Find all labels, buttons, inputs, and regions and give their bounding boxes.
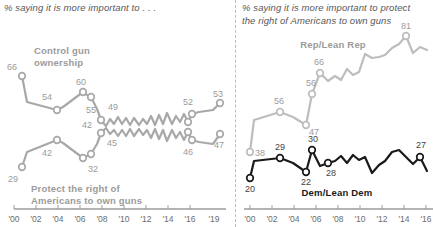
right-chart-panel: % saying it is more important to protect… [236, 0, 433, 227]
data-point-marker [277, 155, 284, 162]
right-chart-svg: 38 56 47 56 66 81 20 29 22 30 28 27 Rep/… [236, 0, 433, 227]
data-point-marker [54, 107, 61, 114]
data-point-marker [277, 109, 284, 116]
value-label-rep-c: 56 [306, 78, 316, 88]
value-label-protect-b: 32 [88, 164, 98, 174]
axis-label-left-8: '16 [184, 214, 195, 224]
data-point-marker [98, 117, 105, 124]
data-point-marker [19, 164, 26, 171]
data-point-marker [98, 130, 105, 137]
value-label-dem-start: 20 [245, 184, 255, 194]
value-label-protect-end: 47 [214, 140, 224, 150]
data-point-marker [309, 147, 316, 154]
data-point-marker [403, 33, 410, 40]
data-point-marker [88, 94, 95, 101]
value-label-control-d: 49 [108, 102, 118, 112]
series-label-control-gun-ownership: Control gunownership [34, 45, 90, 68]
axis-label-right-4: '08 [332, 214, 343, 224]
data-point-marker [189, 137, 196, 144]
value-label-rep-d: 66 [314, 57, 324, 67]
data-point-marker [189, 111, 196, 118]
axis-label-right-0: '00 [244, 214, 255, 224]
data-point-marker [185, 129, 192, 136]
data-point-marker [303, 169, 310, 176]
value-label-dem-c: 30 [308, 134, 318, 144]
axis-label-left-0: '00 [8, 214, 19, 224]
data-point-marker [88, 151, 95, 158]
axis-label-left-4: '08 [96, 214, 107, 224]
value-label-dem-b: 22 [301, 177, 311, 187]
value-label-protect-d: 45 [107, 138, 117, 148]
value-label-rep-end: 81 [401, 21, 411, 31]
data-point-marker [185, 119, 192, 126]
series-label-rep-lean-rep: Rep/Lean Rep [300, 39, 366, 50]
value-label-control-a: 54 [42, 92, 52, 102]
data-point-marker [54, 137, 61, 144]
axis-label-right-3: '06 [310, 214, 321, 224]
value-label-dem-d: 28 [326, 168, 336, 178]
axis-label-right-1: '02 [266, 214, 277, 224]
value-label-dem-end: 27 [416, 140, 426, 150]
data-point-marker [19, 73, 26, 80]
value-label-control-c: 55 [86, 105, 96, 115]
left-chart-svg: 66 54 60 55 49 52 53 29 42 32 42 45 46 4… [0, 0, 226, 227]
data-point-marker [309, 91, 316, 98]
axis-label-left-9: '19 [208, 214, 219, 224]
value-label-dem-a: 29 [275, 142, 285, 152]
left-chart-panel: % saying it is more important to . . . 6… [0, 0, 226, 227]
axis-label-right-6: '12 [376, 214, 387, 224]
value-label-control-b: 60 [76, 77, 86, 87]
value-label-rep-a: 56 [274, 96, 284, 106]
axis-label-right-8: '16 [420, 214, 431, 224]
axis-label-left-5: '10 [118, 214, 129, 224]
data-point-marker [417, 154, 424, 161]
data-point-marker [217, 100, 224, 107]
value-label-protect-start: 29 [8, 174, 18, 184]
value-label-rep-start: 38 [255, 148, 265, 158]
axis-label-left-1: '02 [30, 214, 41, 224]
dem-lean-dem-line [250, 150, 427, 178]
series-label-protect-right: Protect the right ofAmericans to own gun… [31, 183, 142, 206]
value-label-protect-e: 46 [183, 147, 193, 157]
data-point-marker [80, 89, 87, 96]
axis-label-left-7: '14 [162, 214, 173, 224]
axis-label-right-7: '14 [398, 214, 409, 224]
value-label-control-e: 52 [183, 97, 193, 107]
axis-label-left-3: '06 [74, 214, 85, 224]
data-point-marker [80, 155, 87, 162]
data-point-marker [247, 175, 254, 182]
value-label-control-start: 66 [7, 62, 17, 72]
data-point-marker [325, 160, 332, 167]
axis-label-left-2: '04 [52, 214, 63, 224]
rep-lean-rep-line [250, 36, 427, 152]
axis-label-left-6: '12 [140, 214, 151, 224]
data-point-marker [217, 131, 224, 138]
data-point-marker [317, 70, 324, 77]
series-label-dem-lean-dem: Dem/Lean Dem [301, 187, 372, 198]
value-label-control-end: 53 [213, 89, 223, 99]
value-label-protect-a: 42 [42, 148, 52, 158]
axis-label-right-2: '04 [288, 214, 299, 224]
axis-label-right-5: '10 [354, 214, 365, 224]
value-label-protect-c: 42 [82, 120, 92, 130]
data-point-marker [247, 149, 254, 156]
